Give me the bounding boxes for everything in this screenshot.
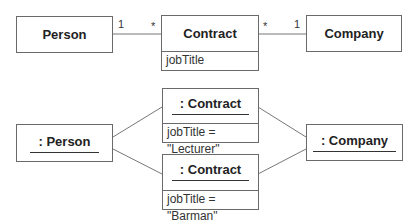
object-contract-lecturer-attribute: jobTitle = "Lecturer" bbox=[163, 123, 258, 142]
object-company[interactable]: : Company bbox=[306, 124, 403, 161]
person-contract2-link bbox=[113, 149, 162, 174]
object-person[interactable]: : Person bbox=[16, 124, 113, 162]
class-company-name: Company bbox=[307, 26, 401, 41]
object-contract-barman-name: : Contract bbox=[163, 162, 258, 181]
class-contract[interactable]: Contract jobTitle bbox=[161, 15, 259, 71]
class-contract-name: Contract bbox=[162, 26, 258, 41]
object-company-name: : Company bbox=[307, 133, 402, 152]
object-contract-lecturer-name: : Contract bbox=[163, 96, 258, 115]
contract2-company-link bbox=[258, 149, 306, 174]
multiplicity-contract-end-right: * bbox=[263, 20, 267, 32]
class-person-name: Person bbox=[17, 27, 112, 42]
object-contract-lecturer[interactable]: : Contract jobTitle = "Lecturer" bbox=[162, 88, 259, 143]
class-company[interactable]: Company bbox=[306, 15, 402, 52]
object-contract-barman[interactable]: : Contract jobTitle = "Barman" bbox=[162, 154, 259, 210]
multiplicity-contract-end-left: * bbox=[151, 20, 155, 32]
object-contract-barman-attribute: jobTitle = "Barman" bbox=[163, 190, 258, 209]
person-contract1-link bbox=[113, 107, 162, 137]
class-contract-attribute: jobTitle bbox=[162, 51, 258, 70]
class-person[interactable]: Person bbox=[16, 16, 113, 53]
multiplicity-company-end: 1 bbox=[294, 18, 300, 30]
contract1-company-link bbox=[258, 107, 306, 137]
object-person-name: : Person bbox=[17, 134, 112, 153]
multiplicity-person-end: 1 bbox=[118, 18, 124, 30]
